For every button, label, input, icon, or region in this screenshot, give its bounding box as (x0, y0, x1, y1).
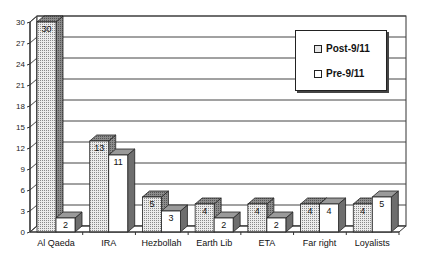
legend-swatch-dotted-icon (314, 45, 322, 53)
y-tick-label: 18 (16, 102, 25, 111)
y-axis: 036912151821242730 (16, 18, 30, 237)
data-label: 4 (308, 206, 313, 216)
y-tick-label: 30 (16, 18, 25, 27)
data-label: 2 (63, 220, 68, 230)
x-category-label: IRA (101, 238, 116, 248)
data-label: 4 (327, 206, 332, 216)
data-label: 5 (379, 199, 384, 209)
bar: 2 (56, 212, 82, 232)
bar: 11 (109, 149, 135, 232)
data-label: 4 (360, 206, 365, 216)
data-label: 11 (114, 157, 123, 167)
legend-swatch-solid-icon (314, 70, 322, 78)
x-category-label: Hezbollah (141, 238, 181, 248)
data-label: 3 (168, 213, 173, 223)
bar: 2 (267, 212, 293, 232)
y-tick-label: 12 (16, 144, 25, 153)
data-label: 2 (221, 220, 226, 230)
y-tick-label: 0 (21, 228, 26, 237)
x-category-label: Loyalists (355, 238, 391, 248)
bar-group: 1311 (90, 135, 135, 232)
legend-label: Pre-9/11 (326, 68, 364, 79)
data-label: 5 (149, 199, 154, 209)
x-axis: Al QaedaIRAHezbollahEarth LibETAFar righ… (30, 232, 399, 248)
y-tick-label: 15 (16, 123, 25, 132)
data-label: 4 (255, 206, 260, 216)
data-label: 30 (41, 24, 51, 34)
bar: 4 (320, 198, 346, 232)
bar: 3 (161, 205, 187, 232)
y-tick-label: 24 (16, 60, 25, 69)
data-label: 4 (202, 206, 207, 216)
x-category-label: Earth Lib (196, 238, 232, 248)
data-label: 13 (94, 143, 104, 153)
x-category-label: ETA (258, 238, 275, 248)
y-tick-label: 9 (21, 165, 26, 174)
x-category-label: Al Qaeda (37, 238, 75, 248)
legend-item-post: Post-9/11 (314, 43, 370, 54)
y-tick-label: 6 (21, 186, 26, 195)
x-category-label: Far right (303, 238, 337, 248)
data-label: 2 (274, 220, 279, 230)
y-tick-label: 3 (21, 207, 26, 216)
bar-group: 44 (301, 198, 346, 232)
bar: 30 (37, 16, 63, 232)
bar: 5 (372, 191, 398, 232)
legend-item-pre: Pre-9/11 (314, 68, 364, 79)
bar: 2 (214, 212, 240, 232)
y-tick-label: 21 (16, 81, 25, 90)
legend: Post-9/11 Pre-9/11 (295, 30, 387, 91)
legend-label: Post-9/11 (326, 43, 370, 54)
y-tick-label: 27 (16, 39, 25, 48)
